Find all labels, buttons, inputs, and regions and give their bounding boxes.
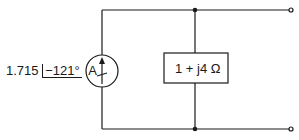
terminal-top[interactable] xyxy=(289,8,293,12)
source-magnitude: 1.715 xyxy=(6,63,39,78)
node-bottom xyxy=(193,127,198,132)
arrow-head-icon xyxy=(99,57,105,64)
impedance-label: 1 + j4 Ω xyxy=(175,61,221,76)
source-label: 1.715 −121° A xyxy=(6,63,97,78)
node-top xyxy=(193,8,198,13)
source-unit: A xyxy=(88,63,97,78)
terminal-bottom[interactable] xyxy=(289,127,293,131)
source-angle: −121° xyxy=(42,64,81,78)
